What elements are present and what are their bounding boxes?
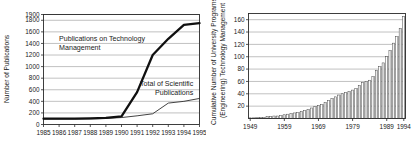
chart-annotation: Publications on Technology — [59, 35, 145, 43]
bar-shading — [346, 93, 347, 119]
bar-chart-svg: Cumulative Number of University Programs… — [206, 0, 413, 148]
left-y-tick-labels: 0200400600800100012001400160018001900 — [25, 11, 40, 128]
right-gridlines — [246, 20, 406, 106]
y-tick-label: 40 — [237, 90, 245, 97]
chart-annotation: Total of Scientific — [140, 80, 194, 88]
bar-shading — [384, 63, 385, 119]
y-tick-label: 1900 — [25, 11, 40, 18]
bar-shading — [353, 90, 354, 118]
bar-shading — [343, 94, 344, 119]
x-tick-label: 1990 — [114, 129, 129, 136]
bar-shading — [380, 67, 381, 119]
bar-shading — [309, 109, 310, 118]
right-y-axis-title-line1: Cumulative Number of University Programs… — [210, 0, 218, 125]
figure-container: Number of Publications 02004006008001000… — [0, 0, 413, 148]
x-tick-label: 1994 — [397, 123, 412, 130]
bar-shading — [373, 77, 374, 119]
y-tick-label: 1400 — [25, 40, 40, 47]
bar-shading — [295, 113, 296, 119]
y-tick-label: 600 — [29, 86, 40, 93]
x-tick-label: 1991 — [130, 129, 145, 136]
x-tick-label: 1987 — [68, 129, 83, 136]
x-tick-label: 1989 — [99, 129, 114, 136]
x-tick-label: 1979 — [345, 123, 360, 130]
right-x-tick-labels: 194919591969197919891994 — [243, 119, 411, 130]
bar-shading — [298, 112, 299, 118]
left-annotations: Publications on TechnologyManagementTota… — [59, 35, 194, 98]
bar-shading — [312, 108, 313, 119]
y-tick-label: 140 — [234, 28, 245, 35]
y-tick-label: 0 — [36, 121, 40, 128]
bar-shading — [322, 104, 323, 118]
x-tick-label: 1993 — [161, 129, 176, 136]
bar-shading — [370, 80, 371, 118]
bar-shading — [302, 112, 303, 119]
bar-shading — [281, 115, 282, 118]
x-tick-label: 1986 — [52, 129, 67, 136]
y-tick-label: 120 — [234, 41, 245, 48]
bar-shading — [339, 95, 340, 118]
y-tick-label: 1600 — [25, 28, 40, 35]
x-tick-label: 1959 — [277, 123, 292, 130]
bar-shading — [363, 83, 364, 119]
x-tick-label: 1988 — [83, 129, 98, 136]
chart-annotation: Management — [59, 44, 100, 52]
left-x-tick-labels: 1985198619871988198919901991199219931994… — [36, 125, 206, 136]
bar-shading — [394, 43, 395, 118]
x-tick-label: 1992 — [146, 129, 161, 136]
bar-shading — [319, 106, 320, 119]
x-tick-label: 1969 — [311, 123, 326, 130]
y-tick-label: 400 — [29, 98, 40, 105]
bar-shading — [332, 99, 333, 119]
y-tick-label: 20 — [237, 102, 245, 109]
y-tick-label: 160 — [234, 16, 245, 23]
bar-shading — [367, 81, 368, 118]
bar-shading — [349, 91, 350, 118]
bar-shading — [397, 36, 398, 118]
bar-shading — [288, 114, 289, 118]
bar-shading — [291, 114, 292, 119]
bar-shading — [390, 51, 391, 119]
left-y-axis-title: Number of Publications — [3, 34, 10, 103]
y-tick-label: 800 — [29, 74, 40, 81]
bar-shading — [285, 115, 286, 119]
bar-shading — [326, 102, 327, 118]
bar-shading — [356, 88, 357, 118]
x-tick-label: 1949 — [243, 123, 258, 130]
bar-shading — [401, 28, 402, 118]
x-tick-label: 1995 — [192, 129, 206, 136]
university-programs-bar-chart-panel: Cumulative Number of University Programs… — [206, 0, 413, 148]
x-tick-label: 1985 — [36, 129, 51, 136]
line-chart-svg: Number of Publications 02004006008001000… — [0, 0, 206, 148]
x-tick-label: 1994 — [177, 129, 192, 136]
bar-shading — [387, 57, 388, 119]
y-tick-label: 200 — [29, 109, 40, 116]
bar-shading — [336, 97, 337, 119]
y-tick-label: 1200 — [25, 51, 40, 58]
right-y-axis-title-line2: (Engineering) Technology Management — [219, 3, 227, 118]
y-tick-label: 80 — [237, 65, 245, 72]
y-tick-label: 60 — [237, 78, 245, 85]
bar-shading — [360, 86, 361, 119]
bar-shading — [377, 70, 378, 118]
chart-annotation: Publications — [155, 89, 194, 97]
y-tick-label: 1000 — [25, 63, 40, 70]
bar-shading — [315, 107, 316, 119]
bar-shading — [404, 17, 405, 119]
y-tick-label: 100 — [234, 53, 245, 60]
right-y-tick-labels: 20406080100120140160 — [234, 16, 245, 109]
bar-shading — [329, 101, 330, 119]
x-tick-label: 1989 — [380, 123, 395, 130]
publications-line-chart-panel: Number of Publications 02004006008001000… — [0, 0, 206, 148]
bar-shading — [305, 110, 306, 118]
